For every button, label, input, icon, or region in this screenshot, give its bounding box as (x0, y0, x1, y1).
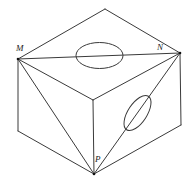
edge-right-bottom-to-p (94, 125, 181, 174)
section-line-np (94, 53, 180, 174)
edge-n-to-right-bottom (180, 53, 181, 125)
edge-left-bottom-to-p (18, 131, 94, 174)
section-line-mp (18, 59, 94, 174)
section-line-mn (18, 53, 180, 59)
label-p: P (94, 154, 101, 164)
edge-m-to-front-top (18, 59, 93, 100)
vertex-m-dot (17, 58, 20, 61)
edge-top-back-to-m (18, 9, 105, 59)
label-n: N (156, 42, 164, 52)
vertex-n-dot (179, 52, 182, 55)
edge-front-top-to-p (93, 100, 94, 174)
edge-n-to-front-top (93, 53, 180, 100)
label-m: M (15, 43, 24, 53)
vertex-p-dot (93, 173, 96, 176)
cube-diagram: M N P (0, 0, 193, 186)
